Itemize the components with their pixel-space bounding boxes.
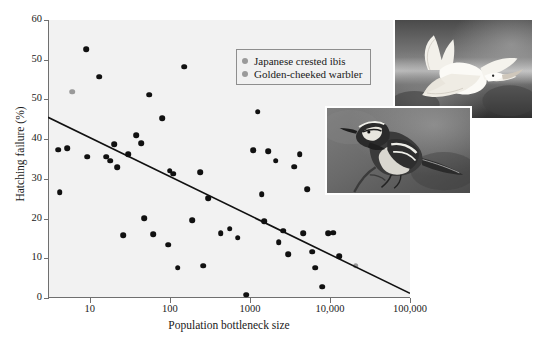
y-axis-label: Hatching failure (%) — [14, 74, 26, 234]
japanese-crested-ibis-photo — [393, 18, 534, 120]
x-axis-label: Population bottleneck size — [0, 319, 458, 331]
x-axis-tick-label: 1000 — [239, 303, 260, 314]
x-axis-tick-label: 100 — [162, 303, 178, 314]
legend: Japanese crested ibis Golden-cheeked war… — [236, 49, 371, 85]
x-axis-tick-label: 10 — [85, 303, 96, 314]
y-axis-tick-label: 50 — [0, 54, 42, 64]
y-axis-tick-text: 60 — [2, 14, 42, 24]
x-axis-tick-label: 10,000 — [316, 303, 345, 314]
y-axis-tick-text: 10 — [2, 252, 42, 262]
golden-cheeked-warbler-photo — [325, 106, 472, 195]
legend-item-ibis: Japanese crested ibis — [242, 54, 362, 67]
scatter-plot-figure: 010203040505060 10100100010,000100,000 P… — [0, 0, 537, 339]
legend-label-ibis: Japanese crested ibis — [254, 55, 346, 67]
legend-marker-icon — [242, 58, 248, 64]
y-axis-tick-text: 50 — [2, 54, 42, 64]
x-axis-tick-label: 100,000 — [393, 303, 427, 314]
y-axis-tick-label: 0 — [0, 292, 42, 302]
y-axis-tick-label: 10 — [0, 252, 42, 262]
y-axis-tick-text: 0 — [2, 292, 42, 302]
legend-marker-icon — [242, 71, 248, 77]
y-axis-tick-label: 60 — [0, 14, 42, 24]
legend-item-warbler: Golden-cheeked warbler — [242, 67, 362, 80]
legend-label-warbler: Golden-cheeked warbler — [254, 68, 362, 80]
y-axis-tick — [44, 298, 49, 299]
